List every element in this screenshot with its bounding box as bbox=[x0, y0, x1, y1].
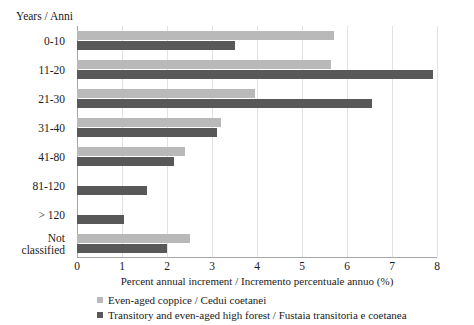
x-axis-label: 3 bbox=[209, 260, 215, 272]
bar bbox=[77, 128, 217, 137]
bar bbox=[77, 31, 334, 40]
gridline bbox=[437, 26, 438, 257]
y-axis-label: Not classified bbox=[22, 232, 65, 256]
x-axis-label: 8 bbox=[434, 260, 440, 272]
y-axis-label: 81-120 bbox=[32, 180, 65, 192]
bar bbox=[77, 41, 235, 50]
plot-area bbox=[77, 26, 437, 258]
bar-group bbox=[77, 229, 437, 258]
bar bbox=[77, 118, 221, 127]
bar-group bbox=[77, 200, 437, 229]
x-axis-title: Percent annual increment / Incremento pe… bbox=[77, 275, 437, 287]
bar bbox=[77, 70, 433, 79]
y-axis-title: Years / Anni bbox=[16, 10, 73, 22]
bar-group bbox=[77, 171, 437, 200]
x-axis-label: 2 bbox=[164, 260, 170, 272]
bar bbox=[77, 215, 124, 224]
legend-label: Even-aged coppice / Cedui coetanei bbox=[108, 294, 266, 306]
y-axis-label: 31-40 bbox=[38, 122, 65, 134]
legend-label: Transitory and even-aged high forest / F… bbox=[108, 309, 407, 321]
y-axis-label: > 120 bbox=[38, 209, 65, 221]
bar-chart: Years / Anni 0-1011-2021-3031-4041-8081-… bbox=[0, 0, 474, 325]
bar bbox=[77, 147, 185, 156]
legend-swatch-icon bbox=[97, 297, 103, 303]
bar bbox=[77, 60, 331, 69]
bar bbox=[77, 186, 147, 195]
bar bbox=[77, 234, 190, 243]
x-axis-label: 1 bbox=[119, 260, 125, 272]
y-axis-label: 21-30 bbox=[38, 93, 65, 105]
x-axis-label: 5 bbox=[299, 260, 305, 272]
x-axis-tick-labels: 012345678 bbox=[77, 260, 437, 276]
y-axis-label: 41-80 bbox=[38, 151, 65, 163]
x-axis-label: 0 bbox=[74, 260, 80, 272]
y-axis-label: 11-20 bbox=[39, 64, 65, 76]
y-axis-tick-labels: 0-1011-2021-3031-4041-8081-120> 120Not c… bbox=[0, 26, 72, 258]
legend-swatch-icon bbox=[97, 312, 103, 318]
x-axis-label: 4 bbox=[254, 260, 260, 272]
chart-legend: Even-aged coppice / Cedui coetaneiTransi… bbox=[97, 292, 467, 322]
bar bbox=[77, 244, 167, 253]
bar-group bbox=[77, 26, 437, 55]
bar bbox=[77, 89, 255, 98]
bar bbox=[77, 157, 174, 166]
bar-rows bbox=[77, 26, 437, 257]
x-axis-label: 6 bbox=[344, 260, 350, 272]
legend-item: Transitory and even-aged high forest / F… bbox=[97, 307, 467, 322]
x-axis-label: 7 bbox=[389, 260, 395, 272]
bar-group bbox=[77, 113, 437, 142]
bar-group bbox=[77, 142, 437, 171]
bar-group bbox=[77, 55, 437, 84]
legend-item: Even-aged coppice / Cedui coetanei bbox=[97, 292, 467, 307]
y-axis-label: 0-10 bbox=[44, 35, 65, 47]
bar bbox=[77, 99, 372, 108]
bar-group bbox=[77, 84, 437, 113]
